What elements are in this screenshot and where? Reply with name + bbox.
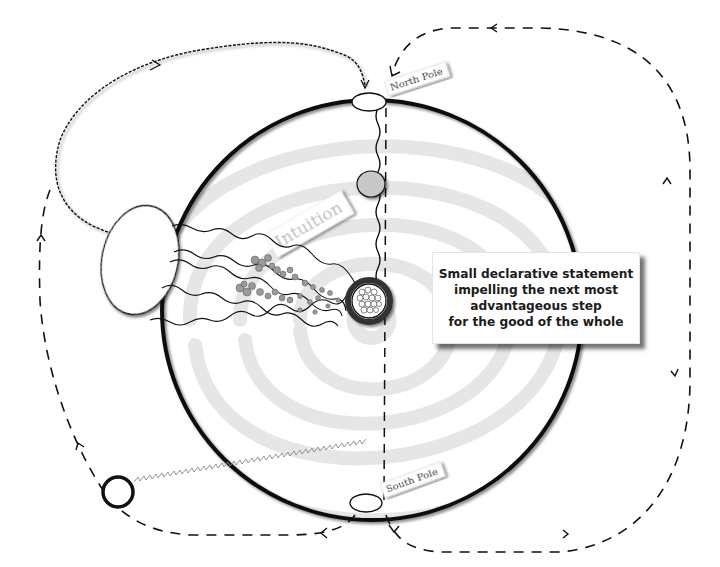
arrow-icon: [390, 66, 400, 76]
statement-line-4: for the good of the whole: [448, 314, 623, 330]
arrow-icon: [663, 178, 671, 184]
arrow-icon: [321, 528, 327, 538]
north-pole-label: North Pole: [384, 62, 450, 96]
south-pole-label: South Pole: [380, 462, 445, 498]
grey-node: [357, 171, 385, 197]
arrow-icon: [389, 525, 399, 532]
statement-callout: Small declarative statement impelling th…: [432, 252, 640, 344]
vertical-wavy-line: [376, 108, 380, 300]
arrow-icon: [37, 235, 45, 241]
arrow-icon: [671, 369, 678, 376]
south-pole-node: [350, 494, 382, 512]
statement-line-2: impelling the next most: [454, 282, 618, 298]
north-pole-node: [352, 93, 386, 111]
outer-origin-circle: [103, 477, 133, 507]
arrow-icon: [76, 443, 84, 450]
arrow-icon: [150, 60, 160, 70]
statement-line-1: Small declarative statement: [439, 266, 633, 282]
arrow-icon: [563, 530, 568, 538]
statement-line-3: advantageous step: [470, 298, 601, 314]
